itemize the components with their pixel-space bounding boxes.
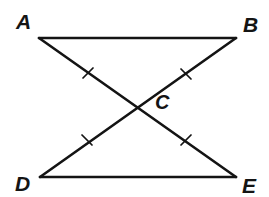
vertex-label-b: B bbox=[243, 14, 258, 35]
geometry-figure: A B C D E bbox=[0, 0, 269, 197]
geometry-canvas bbox=[0, 0, 269, 197]
vertex-label-a: A bbox=[16, 11, 31, 32]
vertex-label-c: C bbox=[155, 92, 169, 113]
vertex-label-e: E bbox=[242, 175, 256, 196]
vertex-label-d: D bbox=[15, 173, 30, 194]
